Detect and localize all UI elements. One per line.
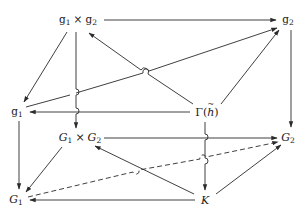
node-g2: g2 [282,14,294,27]
edge-g1xg2-to-g1 [24,32,67,102]
edge-G1-to-G2-dashed [28,142,278,197]
edge-gamma-to-g1xg2 [89,33,193,104]
diagram-edges [0,0,307,216]
node-g1-times-g2: g1×g2 [59,14,97,27]
edge-g1xg2-to-G1xG2 [76,32,79,128]
edge-K-to-G1xG2 [95,146,194,194]
node-G2: G2 [281,132,295,145]
node-K: K [201,195,209,206]
node-gamma-h-tilde: Γ(h) [195,107,218,118]
node-G1-times-G2: G1×G2 [59,132,101,145]
edge-G1xG2-to-G1 [26,147,62,192]
node-G1: G1 [9,194,23,207]
edge-K-to-G2 [216,145,281,194]
edge-g1-to-g2 [26,28,277,107]
commutative-diagram: g1×g2 g2 g1 Γ(h) G1×G2 G2 G1 K [0,0,307,216]
edge-gamma-to-g2 [221,30,279,104]
node-g1: g1 [11,106,23,119]
